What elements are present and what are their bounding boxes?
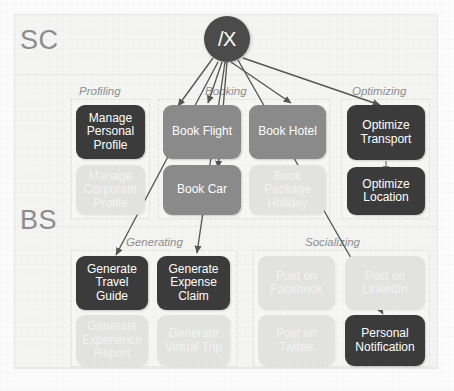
node-manage-personal-profile-label: Manage Personal Profile [78,112,143,153]
node-post-on-facebook-label: Post on Facebook [260,270,333,297]
node-manage-corporate-profile[interactable]: Manage Corporate Profile [76,165,145,215]
diagram-canvas: SC BS Profiling Booking Optimizing Gener… [0,0,454,391]
node-book-hotel-label: Book Hotel [258,125,317,139]
group-label-optimizing: Optimizing [352,86,406,98]
node-generate-travel-guide[interactable]: Generate Travel Guide [76,256,148,310]
node-generate-experience-report-label: Generate Experience Report [78,320,146,361]
node-personal-notification-label: Personal Notification [347,327,423,354]
band-label-sc: SC [20,27,59,54]
node-manage-corporate-profile-label: Manage Corporate Profile [78,170,143,211]
node-post-on-twitter[interactable]: Post on Twitter [258,315,335,366]
node-post-on-facebook[interactable]: Post on Facebook [258,256,335,310]
scan-separator-bottom [15,367,437,368]
node-generate-expense-claim[interactable]: Generate Expense Claim [157,256,230,310]
node-generate-travel-guide-label: Generate Travel Guide [78,263,146,304]
node-generate-experience-report[interactable]: Generate Experience Report [76,315,148,366]
node-book-car[interactable]: Book Car [163,165,241,215]
hub-node[interactable]: /X [204,16,250,62]
node-post-on-linkedin[interactable]: Post on LinkedIn [345,256,425,310]
node-post-on-linkedin-label: Post on LinkedIn [347,270,423,297]
group-label-socializing: Socializing [305,237,360,249]
scan-separator-top [15,74,437,75]
group-label-generating: Generating [126,237,183,249]
node-book-package-holiday[interactable]: Book Package Holiday [249,165,326,215]
node-book-package-holiday-label: Book Package Holiday [251,170,324,211]
node-generate-virtual-trip-label: Generate Virtual Trip [159,327,228,354]
node-personal-notification[interactable]: Personal Notification [345,315,425,366]
node-generate-virtual-trip[interactable]: Generate Virtual Trip [157,315,230,366]
node-manage-personal-profile[interactable]: Manage Personal Profile [76,105,145,159]
group-label-booking: Booking [205,86,247,98]
node-book-flight[interactable]: Book Flight [163,105,241,159]
node-book-hotel[interactable]: Book Hotel [249,105,326,159]
node-optimize-transport[interactable]: Optimize Transport [347,105,425,160]
node-post-on-twitter-label: Post on Twitter [260,327,333,354]
node-book-car-label: Book Car [177,183,227,197]
band-label-bs: BS [20,207,57,234]
node-optimize-transport-label: Optimize Transport [349,119,423,146]
group-label-profiling: Profiling [79,86,121,98]
node-optimize-location[interactable]: Optimize Location [347,167,425,215]
hub-node-label: /X [218,28,236,51]
node-generate-expense-claim-label: Generate Expense Claim [159,263,228,304]
node-book-flight-label: Book Flight [172,125,232,139]
scan-separator-middle [15,226,437,227]
node-optimize-location-label: Optimize Location [349,178,423,205]
